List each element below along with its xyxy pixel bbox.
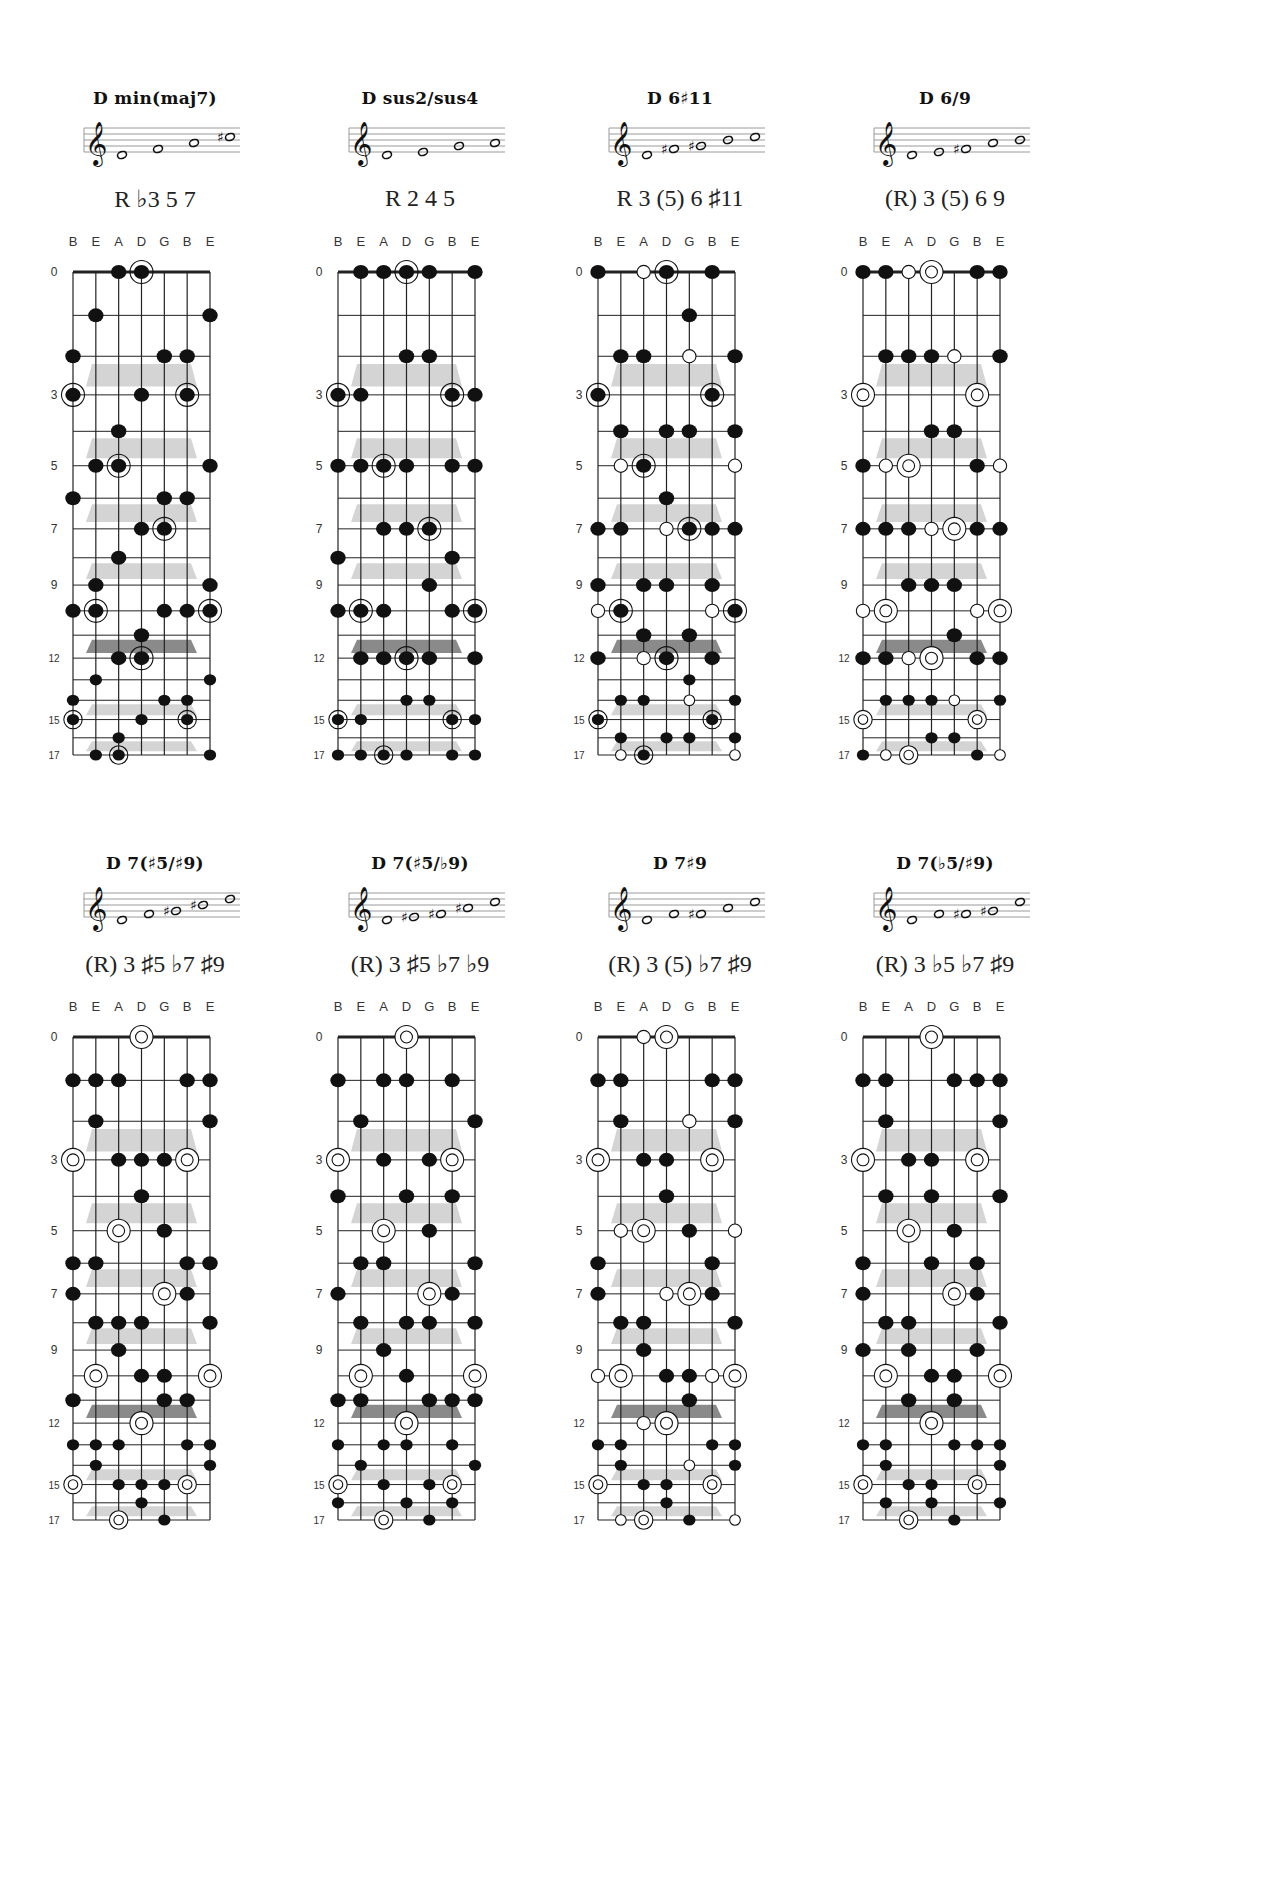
chord-tone-dot: [857, 749, 869, 760]
chord-tone-dot: [924, 1256, 939, 1270]
chord-tone-dot: [659, 578, 674, 592]
optional-tone-dot: [728, 1224, 741, 1237]
optional-root-dot: [899, 746, 917, 764]
chord-tone-dot: [590, 1073, 605, 1087]
chord-tone-dot: [134, 388, 149, 402]
optional-tone-dot: [879, 459, 892, 472]
staff-notation: 𝄞♯♯: [80, 877, 250, 937]
string-label: B: [334, 234, 343, 249]
string-label: B: [183, 999, 192, 1014]
chord-tone-dot: [947, 1073, 962, 1087]
chord-tone-dot: [422, 349, 437, 363]
chord-tone-dot: [659, 1153, 674, 1167]
optional-tone-dot: [616, 1515, 627, 1526]
chord-tone-dot: [855, 1256, 870, 1270]
fret-number: 5: [51, 1224, 58, 1238]
chord-tone-dot: [855, 651, 870, 665]
chord-tone-dot: [330, 1287, 345, 1301]
chord-tone-dot: [353, 388, 368, 402]
string-label: G: [159, 999, 169, 1014]
fret-number: 0: [51, 1030, 58, 1044]
chord-tone-dot: [903, 695, 915, 706]
fret-number: 17: [313, 750, 325, 761]
treble-clef-icon: 𝄞: [85, 121, 107, 167]
optional-root-dot: [178, 1475, 196, 1493]
chord-tone-dot: [857, 1439, 869, 1450]
chord-tone-dot: [204, 1439, 216, 1450]
chord-tone-dot: [330, 1393, 345, 1407]
optional-tone-dot: [637, 651, 650, 664]
optional-root-dot: [703, 1475, 721, 1493]
chord-tone-dot: [878, 651, 893, 665]
chord-tone-dot: [855, 522, 870, 536]
optional-root-dot: [899, 1511, 917, 1529]
chord-tone-dot: [467, 1114, 482, 1128]
chord-tone-dot: [134, 1369, 149, 1383]
chord-tone-dot: [659, 1189, 674, 1203]
string-label: D: [137, 999, 146, 1014]
chord-tone-dot: [134, 1153, 149, 1167]
sharp-icon: ♯: [401, 909, 408, 925]
optional-root-dot: [655, 1412, 678, 1435]
fret-number: 15: [48, 1480, 60, 1491]
chord-tone-dot: [202, 459, 217, 473]
chord-tone-dot: [179, 1287, 194, 1301]
chord-tone-dot: [992, 1114, 1007, 1128]
chord-tone-dot: [855, 265, 870, 279]
chord-tone-dot: [948, 1514, 960, 1525]
chord-tone-dot: [422, 1224, 437, 1238]
string-label: D: [402, 234, 411, 249]
chord-tone-dot: [994, 1460, 1006, 1471]
chord-tone-dot: [202, 1316, 217, 1330]
chord-tone-dot: [704, 265, 719, 279]
chord-tone-dot: [158, 695, 170, 706]
chord-tone-dot: [202, 1256, 217, 1270]
optional-root-dot: [852, 1148, 875, 1171]
string-label: A: [904, 234, 913, 249]
string-label: B: [973, 234, 982, 249]
chord-tone-dot: [901, 578, 916, 592]
fret-number: 17: [573, 1515, 585, 1526]
string-label: E: [356, 234, 365, 249]
chord-tone-dot: [113, 1479, 125, 1490]
optional-root-dot: [107, 1219, 130, 1242]
string-label: D: [662, 999, 671, 1014]
optional-tone-dot: [683, 350, 696, 363]
chord-tone-dot: [353, 1256, 368, 1270]
optional-root-dot: [395, 1412, 418, 1435]
chord-tone-dot: [659, 1369, 674, 1383]
chord-tone-dot: [878, 265, 893, 279]
chord-tone-dot: [467, 459, 482, 473]
fret-number: 9: [51, 578, 58, 592]
chord-tone-dot: [179, 349, 194, 363]
chord-tone-dot: [682, 424, 697, 438]
optional-root-dot: [109, 1511, 127, 1529]
string-label: B: [448, 234, 457, 249]
chord-tone-dot: [948, 1439, 960, 1450]
chord-tone-dot: [330, 604, 345, 618]
chord-tone-dot: [592, 1439, 604, 1450]
string-label: E: [731, 234, 740, 249]
chord-tone-dot: [353, 265, 368, 279]
optional-root-dot: [966, 383, 989, 406]
chord-tone-dot: [467, 651, 482, 665]
chord-tone-dot: [901, 1343, 916, 1357]
fret-number: 15: [48, 715, 60, 726]
fret-number: 15: [838, 1480, 850, 1491]
chord-tone-dot: [855, 459, 870, 473]
chord-tone-dot: [901, 349, 916, 363]
fretboard-diagram: BEADGBE03579121517: [305, 993, 525, 1533]
chord-tone-dot: [134, 628, 149, 642]
chord-tone-dot: [638, 1479, 650, 1490]
optional-root-dot: [968, 1475, 986, 1493]
chord-tone-dot: [111, 424, 126, 438]
chord-tone-dot: [355, 1460, 367, 1471]
chord-tone-dot: [88, 1114, 103, 1128]
chord-tone-dot: [971, 1439, 983, 1450]
chord-tone-dot: [65, 349, 80, 363]
fret-number: 0: [51, 265, 58, 279]
optional-tone-dot: [614, 459, 627, 472]
string-label: B: [859, 234, 868, 249]
chord-tone-dot: [636, 628, 651, 642]
chord-tone-dot: [613, 349, 628, 363]
